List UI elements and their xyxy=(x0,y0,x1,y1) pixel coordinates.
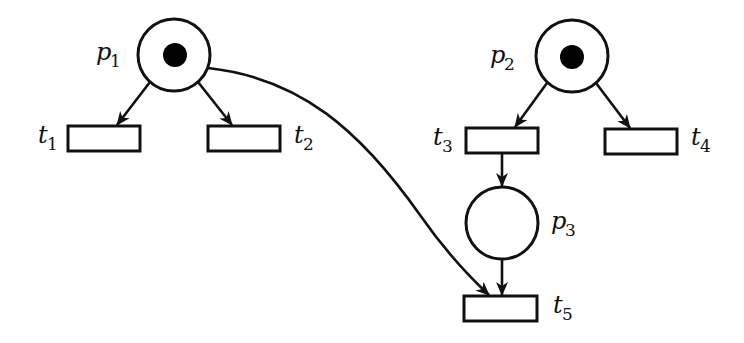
label-sub: 1 xyxy=(47,134,58,154)
label-p3: p 3 xyxy=(551,207,576,240)
transition-t2 xyxy=(208,126,280,151)
label-sub: 1 xyxy=(110,51,121,71)
label-t2: t 2 xyxy=(294,121,314,154)
label-sub: 2 xyxy=(504,54,515,74)
label-sub: 5 xyxy=(562,304,573,324)
label-t1: t 1 xyxy=(38,121,58,154)
place-circle xyxy=(466,187,538,259)
place-p2 xyxy=(536,20,608,92)
label-sub: 4 xyxy=(700,136,711,156)
arcs xyxy=(117,68,630,295)
transition-t3 xyxy=(466,128,538,153)
token-icon xyxy=(560,45,584,69)
label-p1: p 1 xyxy=(96,38,121,71)
transition-t1 xyxy=(68,126,140,151)
label-p2: p 2 xyxy=(490,41,515,74)
arc-p1-t5-curve xyxy=(208,68,489,295)
place-p3 xyxy=(466,187,538,259)
token-icon xyxy=(163,43,187,67)
label-t3: t 3 xyxy=(433,123,453,156)
arc-p1-t1 xyxy=(117,82,150,125)
label-t4: t 4 xyxy=(691,123,711,156)
label-sub: 2 xyxy=(303,134,314,154)
arc-p2-t3 xyxy=(515,83,547,127)
place-p1 xyxy=(138,19,210,91)
label-sub: 3 xyxy=(565,220,576,240)
transition-t4 xyxy=(605,129,677,154)
petri-net-diagram: marker#arrow { overflow: visible; } p 1 xyxy=(0,0,744,343)
arc-p1-t2 xyxy=(198,82,232,125)
label-t5: t 5 xyxy=(553,291,573,324)
arc-p2-t4 xyxy=(596,83,630,128)
transition-t5 xyxy=(464,296,537,321)
label-sub: 3 xyxy=(442,136,453,156)
